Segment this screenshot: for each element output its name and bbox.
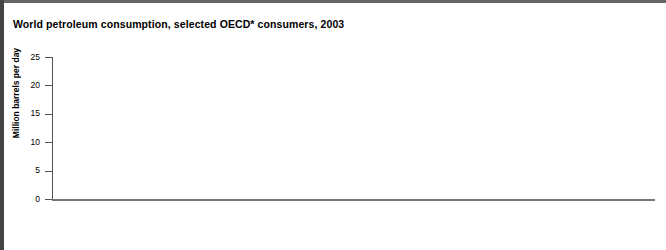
y-axis-tick-label: 20 [10, 81, 40, 90]
y-axis-tick-label: 10 [10, 138, 40, 147]
y-axis-tick [45, 142, 52, 143]
y-axis-line [52, 57, 53, 200]
y-axis-tick-label: 25 [10, 53, 40, 62]
plot-area: Million barrels per day 0510152025 20.0U… [0, 0, 666, 250]
y-axis-tick [45, 171, 52, 172]
figure: World petroleum consumption, selected OE… [0, 0, 666, 250]
y-axis-tick-label: 15 [10, 109, 40, 118]
x-axis-baseline [52, 199, 655, 201]
y-axis-title: Million barrels per day [11, 33, 21, 153]
y-axis-tick-label: 5 [10, 166, 40, 175]
y-axis-tick [45, 57, 52, 58]
y-axis-tick [45, 199, 52, 200]
y-axis-tick [45, 85, 52, 86]
y-axis-tick [45, 114, 52, 115]
y-axis-tick-label: 0 [10, 195, 40, 204]
